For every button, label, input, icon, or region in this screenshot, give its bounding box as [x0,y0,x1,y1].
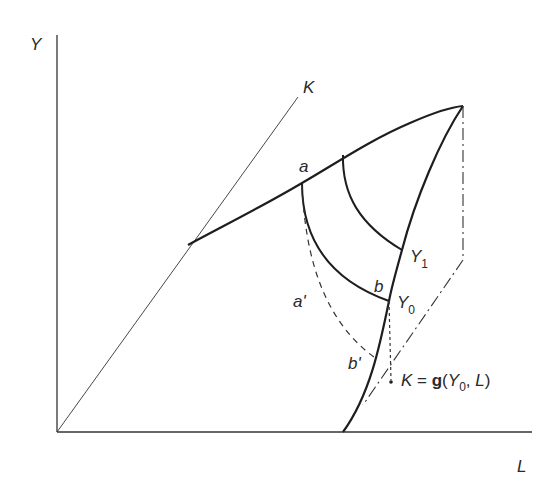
k-ray [57,97,298,432]
l-axis-label: L [517,457,526,476]
dotted-projection [389,301,391,380]
point-a-prime-label: a' [293,292,306,311]
top-envelope-curve [188,106,463,245]
production-diagram: Y L K a a' b b' Y1 Y0 K = g(Y0, L) [0,0,559,489]
y0-label: Y0 [397,293,415,317]
point-b-label: b [374,277,383,296]
y-axis-label: Y [30,35,43,54]
equation-label: K = g(Y0, L) [401,371,490,394]
k-ray-label: K [303,78,315,97]
point-a-label: a [299,157,308,176]
isoquant-y1 [343,155,402,250]
k-point [389,380,393,384]
point-b-prime-label: b' [348,354,361,373]
y1-label: Y1 [410,247,428,271]
